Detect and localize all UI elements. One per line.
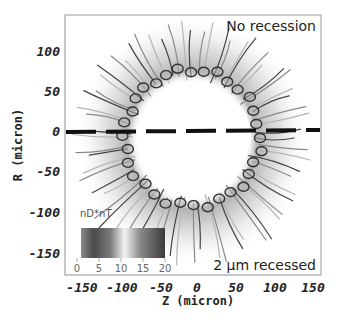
svg-text:-100: -100 xyxy=(29,205,60,220)
svg-text:150: 150 xyxy=(301,280,325,295)
annotation-recessed: 2 µm recessed xyxy=(213,257,316,273)
svg-text:-150: -150 xyxy=(29,246,60,261)
svg-text:-50: -50 xyxy=(149,280,173,295)
y-axis-title: R (micron) xyxy=(11,109,25,181)
svg-text:100: 100 xyxy=(37,44,61,59)
colorbar-gradient xyxy=(81,228,165,258)
colorbar-tick: 5 xyxy=(96,263,102,274)
svg-text:-150: -150 xyxy=(66,280,97,295)
x-axis-title: Z (micron) xyxy=(162,294,234,308)
svg-text:50: 50 xyxy=(228,280,244,295)
svg-text:100: 100 xyxy=(263,280,287,295)
colorbar-tick: 10 xyxy=(115,263,128,274)
colorbar-tick: 20 xyxy=(159,263,172,274)
colorbar-tick: 0 xyxy=(74,263,80,274)
colorbar-tick: 15 xyxy=(137,263,150,274)
annotation-no-recession: No recession xyxy=(226,18,316,34)
svg-text:50: 50 xyxy=(44,84,60,99)
y-axis-ticks: 100 50 0 -50 -100 -150 xyxy=(29,44,60,261)
x-axis-ticks: -150 -100 -50 0 50 100 150 xyxy=(66,280,325,295)
svg-text:0: 0 xyxy=(193,280,201,295)
figure: No recession 2 µm recessed nD*nT 0 5 10 … xyxy=(0,0,339,324)
svg-text:0: 0 xyxy=(52,124,60,139)
svg-text:-50: -50 xyxy=(37,164,61,179)
colorbar-label: nD*nT xyxy=(80,208,112,219)
svg-text:-100: -100 xyxy=(106,280,137,295)
